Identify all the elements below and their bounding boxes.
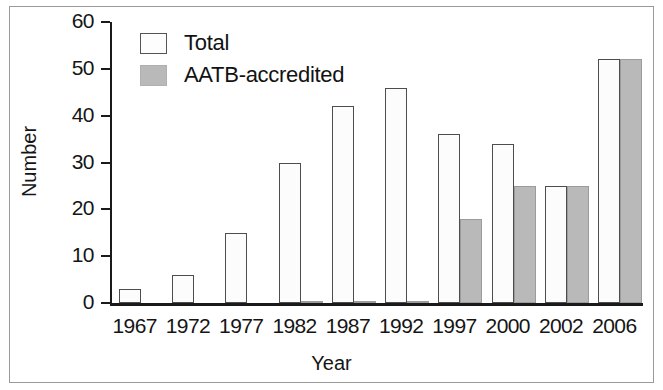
bar-pair <box>598 22 642 303</box>
x-axis-title: Year <box>0 352 663 375</box>
y-tick-label: 10 <box>48 243 94 267</box>
figure-container: Number 0102030405060 1967197219771982198… <box>0 0 663 390</box>
bar-aatb-accredited-1997 <box>460 219 482 303</box>
bar-aatb-accredited-1992 <box>407 301 429 303</box>
legend-item-aatb-accredited: AATB-accredited <box>140 59 344 91</box>
bar-total-1967 <box>119 289 141 303</box>
y-tick-mark <box>101 302 110 304</box>
bar-pair <box>385 22 429 303</box>
legend: Total AATB-accredited <box>140 27 344 91</box>
bar-aatb-accredited-2002 <box>567 186 589 303</box>
bar-pair <box>545 22 589 303</box>
bar-aatb-accredited-1987 <box>354 301 376 303</box>
y-tick-mark <box>101 115 110 117</box>
bar-total-1972 <box>172 275 194 303</box>
x-tick-label: 1977 <box>215 314 268 338</box>
bar-total-2006 <box>598 59 620 303</box>
y-axis-title: Number <box>18 126 41 197</box>
bar-total-1997 <box>438 134 460 303</box>
x-tick-label: 2000 <box>481 314 534 338</box>
bar-aatb-accredited-2000 <box>514 186 536 303</box>
bar-pair <box>492 22 536 303</box>
bar-total-1982 <box>279 163 301 304</box>
y-tick-mark <box>101 255 110 257</box>
y-tick-mark <box>101 208 110 210</box>
bar-pair <box>438 22 482 303</box>
bar-total-1977 <box>225 233 247 303</box>
y-tick-label: 20 <box>48 196 94 220</box>
x-axis-line <box>110 303 643 306</box>
legend-label-total: Total <box>184 30 229 56</box>
x-tick-label: 1967 <box>108 314 161 338</box>
bar-total-1987 <box>332 106 354 303</box>
x-tick-label: 1982 <box>268 314 321 338</box>
y-tick-label: 50 <box>48 56 94 80</box>
x-tick-label: 1992 <box>375 314 428 338</box>
bar-aatb-accredited-1982 <box>301 301 323 303</box>
y-tick-mark <box>101 21 110 23</box>
legend-swatch-total-icon <box>140 33 167 54</box>
x-tick-label: 2006 <box>588 314 641 338</box>
legend-item-total: Total <box>140 27 344 59</box>
bar-aatb-accredited-2006 <box>620 59 642 303</box>
bar-total-1992 <box>385 88 407 303</box>
y-tick-label: 40 <box>48 103 94 127</box>
y-tick-mark <box>101 68 110 70</box>
x-tick-label: 1972 <box>161 314 214 338</box>
y-axis-line <box>110 22 112 303</box>
y-tick-mark <box>101 162 110 164</box>
x-tick-label: 1997 <box>428 314 481 338</box>
y-tick-label: 60 <box>48 9 94 33</box>
x-tick-label: 2002 <box>534 314 587 338</box>
bar-total-2002 <box>545 186 567 303</box>
y-tick-label: 0 <box>48 290 94 314</box>
bar-total-2000 <box>492 144 514 303</box>
legend-label-aatb-accredited: AATB-accredited <box>184 62 344 88</box>
x-tick-label: 1987 <box>321 314 374 338</box>
legend-swatch-aatb-icon <box>140 65 167 86</box>
y-tick-label: 30 <box>48 150 94 174</box>
